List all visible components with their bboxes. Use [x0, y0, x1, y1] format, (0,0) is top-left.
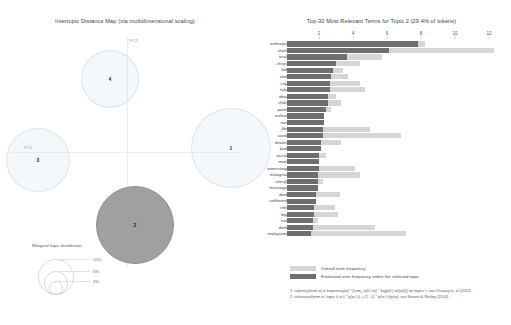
- x-axis-tick-2: 2: [318, 31, 321, 39]
- topic-circle-3[interactable]: 3: [6, 128, 70, 192]
- x-axis-tick-mark-2: [319, 36, 320, 39]
- barchart-x-axis: 24681012: [285, 31, 506, 41]
- bar-term-label[interactable]: unfiltered: [269, 198, 287, 203]
- topic-circle-label-2: 2: [134, 223, 137, 228]
- x-axis-tick-label-6: 6: [386, 31, 389, 36]
- bar-topic-frequency: [287, 107, 326, 112]
- bar-topic-frequency: [287, 113, 324, 118]
- bar-topic-frequency: [287, 185, 318, 190]
- bar-topic-frequency: [287, 140, 321, 145]
- bar-topic-frequency: [287, 212, 314, 217]
- topic-circle-4[interactable]: 4: [81, 50, 139, 108]
- legend-row-overall: Overall term frequency: [290, 265, 505, 273]
- topic-circle-label-4: 4: [109, 77, 112, 82]
- topic-circle-label-1: 1: [230, 146, 233, 151]
- x-axis-tick-10: 10: [452, 31, 457, 39]
- term-barchart-panel: Top-30 Most Relevant Terms for Topic 2 (…: [252, 0, 511, 325]
- marginal-circle-10pct: [38, 259, 74, 295]
- marginal-topic-distribution-title: Marginal topic distribution: [32, 243, 82, 248]
- barchart-bars: anthroposhorttotalchryskidandcitytaleide…: [252, 41, 511, 237]
- x-axis-tick-mark-8: [421, 36, 422, 39]
- bar-topic-frequency: [287, 231, 311, 236]
- legend-label-topic: Estimated term frequency within the sele…: [321, 274, 419, 280]
- bar-term-label[interactable]: bad: [280, 146, 287, 151]
- bar-topic-frequency: [287, 205, 314, 210]
- bar-term-label[interactable]: author: [275, 113, 287, 118]
- bar-term-label[interactable]: dark: [279, 225, 287, 230]
- x-axis-tick-mark-10: [455, 36, 456, 39]
- x-axis-tick-mark-12: [489, 36, 490, 39]
- barchart-legend: Overall term frequency Estimated term fr…: [290, 265, 505, 281]
- legend-label-overall: Overall term frequency: [321, 266, 365, 272]
- bar-term-label[interactable]: and: [280, 74, 287, 79]
- marginal-label-10pct: 10%: [93, 257, 101, 262]
- marginal-topic-distribution-legend: Marginal topic distribution 2%5%10%: [30, 243, 150, 305]
- marginal-label-2pct: 2%: [93, 279, 99, 284]
- bar-term-label[interactable]: used: [278, 133, 287, 138]
- x-axis-tick-mark-6: [387, 36, 388, 39]
- bar-term-label[interactable]: died: [279, 192, 287, 197]
- bar-topic-frequency: [287, 41, 418, 46]
- bar-topic-frequency: [287, 218, 313, 223]
- bar-topic-frequency: [287, 48, 389, 53]
- bar-term-label[interactable]: chile: [278, 100, 287, 105]
- bar-topic-frequency: [287, 179, 318, 184]
- marginal-tick-10pct: [56, 259, 90, 260]
- bar-topic-frequency: [287, 100, 328, 105]
- legend-swatch-topic-icon: [290, 274, 316, 279]
- intertopic-map-title: Intertopic Distance Map (via multidimens…: [0, 18, 250, 24]
- bar-topic-frequency: [287, 225, 313, 230]
- bar-topic-frequency: [287, 74, 331, 79]
- bar-term-label[interactable]: message: [270, 185, 287, 190]
- bar-term-label[interactable]: idea: [279, 94, 287, 99]
- bar-term-label[interactable]: cheryl: [276, 179, 287, 184]
- bar-term-label[interactable]: tale: [280, 87, 287, 92]
- bar-topic-frequency: [287, 54, 347, 59]
- bar-term-label[interactable]: matt: [279, 159, 287, 164]
- bar-term-label[interactable]: dealer: [275, 140, 287, 145]
- barchart-footnotes: 1. saliency(term w) = frequency(w) * [su…: [290, 288, 508, 300]
- x-axis-tick-6: 6: [386, 31, 389, 39]
- bar-topic-frequency: [287, 81, 330, 86]
- bar-term-label[interactable]: total: [279, 54, 287, 59]
- bar-term-label[interactable]: interesting: [267, 166, 287, 171]
- x-axis-tick-label-8: 8: [420, 31, 423, 36]
- x-axis-tick-label-10: 10: [452, 31, 457, 36]
- x-axis-tick-4: 4: [352, 31, 355, 39]
- bar-term-label[interactable]: chrys: [277, 61, 287, 66]
- x-axis-tick-label-2: 2: [318, 31, 321, 36]
- map-axis-label-pc2: PC2: [129, 38, 138, 43]
- bar-term-label[interactable]: anthropo: [270, 41, 287, 46]
- legend-row-topic: Estimated term frequency within the sele…: [290, 273, 505, 281]
- marginal-label-5pct: 5%: [93, 269, 99, 274]
- bar-topic-frequency: [287, 87, 330, 92]
- bar-topic-frequency: [287, 127, 323, 132]
- intertopic-distance-map-panel: Intertopic Distance Map (via multidimens…: [0, 0, 250, 325]
- bar-term-label[interactable]: title: [280, 205, 287, 210]
- barchart-title: Top-30 Most Relevant Terms for Topic 2 (…: [252, 18, 511, 24]
- bar-term-label[interactable]: short: [277, 48, 287, 53]
- x-axis-tick-label-4: 4: [352, 31, 355, 36]
- bar-topic-frequency: [287, 199, 316, 204]
- bar-topic-frequency: [287, 153, 319, 158]
- legend-swatch-overall-icon: [290, 266, 316, 271]
- footnote-relevance: 2. relevance(term w | topic t) = λ * p(w…: [290, 294, 508, 300]
- bar-term-label[interactable]: oscar: [276, 153, 287, 158]
- bar-topic-frequency: [287, 94, 328, 99]
- bar-topic-frequency: [287, 120, 324, 125]
- bar-topic-frequency: [287, 166, 319, 171]
- bar-row[interactable]: malaysian: [252, 231, 511, 238]
- bar-topic-frequency: [287, 146, 321, 151]
- bar-term-label[interactable]: malaysia: [270, 172, 287, 177]
- bar-topic-frequency: [287, 68, 333, 73]
- bar-topic-frequency: [287, 133, 323, 138]
- x-axis-tick-mark-4: [353, 36, 354, 39]
- bar-topic-frequency: [287, 159, 319, 164]
- bar-term-label[interactable]: point: [278, 107, 287, 112]
- bar-term-label[interactable]: malaysian: [268, 231, 287, 236]
- topic-circle-label-3: 3: [37, 158, 40, 163]
- x-axis-tick-label-12: 12: [486, 31, 491, 36]
- bar-topic-frequency: [287, 61, 336, 66]
- x-axis-tick-8: 8: [420, 31, 423, 39]
- ldavis-root: Intertopic Distance Map (via multidimens…: [0, 0, 511, 325]
